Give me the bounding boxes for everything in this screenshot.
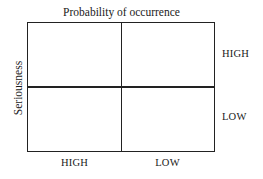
title-text: Probability of occurrence: [63, 6, 180, 18]
risk-matrix-grid: [27, 22, 215, 152]
column-label-low: LOW: [121, 157, 214, 168]
cell-low-seriousness-low-probability: [123, 88, 214, 151]
cell-high-seriousness-low-probability: [123, 23, 214, 86]
cell-high-seriousness-high-probability: [28, 23, 121, 86]
y-axis-label-seriousness: Seriousness: [12, 61, 24, 115]
matrix-title-probability-of-occurrence: Probability of occurrence: [0, 5, 263, 19]
cell-low-seriousness-high-probability: [28, 88, 121, 151]
column-label-high: HIGH: [28, 157, 121, 168]
horizontal-divider: [28, 86, 214, 88]
row-label-low: LOW: [222, 111, 247, 122]
row-label-high: HIGH: [222, 48, 249, 59]
